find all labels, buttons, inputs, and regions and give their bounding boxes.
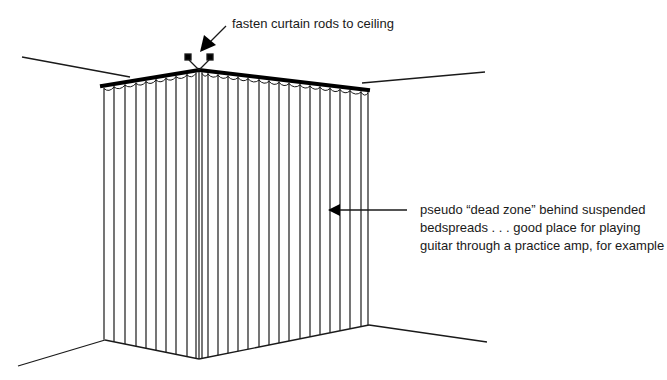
- ceiling-brackets: [185, 54, 213, 70]
- right-curtain-rod: [199, 70, 368, 90]
- room-walls: [18, 57, 487, 366]
- curtain-pleats: [104, 72, 368, 359]
- curtain-diagram: [0, 0, 667, 380]
- annotation-side-line-2: bedspreads . . . good place for playing: [420, 219, 664, 237]
- bracket-icon: [185, 54, 191, 60]
- right-ceiling-line: [362, 72, 485, 83]
- annotation-side-line-3: guitar through a practice amp, for examp…: [420, 237, 664, 255]
- annotation-side-line-1: pseudo “dead zone” behind suspended: [420, 201, 664, 219]
- top-arrow-shaft: [210, 26, 226, 42]
- left-ceiling-line: [22, 57, 130, 77]
- left-floor-line: [18, 340, 105, 366]
- annotation-side: pseudo “dead zone” behind suspended beds…: [420, 201, 664, 255]
- annotation-top: fasten curtain rods to ceiling: [232, 15, 394, 33]
- curtain-rods: [102, 70, 368, 90]
- bracket-icon: [207, 54, 213, 60]
- right-floor-line: [369, 325, 487, 342]
- annotation-arrows: [200, 26, 407, 216]
